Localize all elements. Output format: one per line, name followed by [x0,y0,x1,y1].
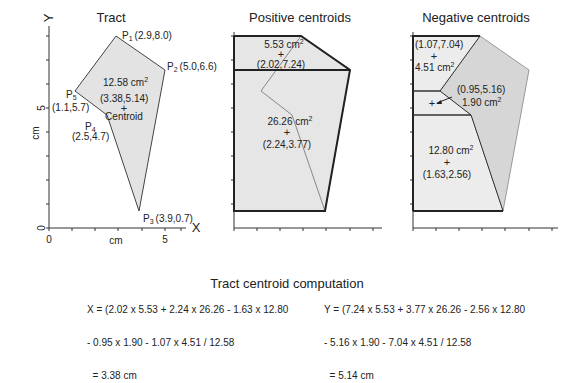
x-formula-line-3: = 3.38 cm [87,370,288,381]
positive-title: Positive centroids [249,10,351,25]
negative-marker-3: + [444,156,450,168]
tract-panel: Tract X Y 0 5 0 5 cm cm P1(2.9,8.0) [30,10,217,246]
positive-marker-2: + [284,126,290,138]
negative-marker-1: + [431,50,437,62]
x-formula-line-1: X = (2.02 x 5.53 + 2.24 x 26.26 - 1.63 x… [87,304,288,315]
positive-coord-1: (2.02,7.24) [257,59,305,70]
y-tick-0: 0 [36,225,47,231]
negative-coord-3: (1.63,2.56) [423,169,471,180]
y-formula-line-1: Y = (7.24 x 5.53 + 3.77 x 26.26 - 2.56 x… [324,304,525,315]
centroid-label: Centroid [105,111,143,122]
point-label-p2: P2(5.0,6.6) [167,61,217,73]
point-label-p1: P1(2.9,8.0) [122,30,172,42]
y-axis-letter: Y [41,13,56,22]
y-tick-5: 5 [36,105,47,111]
x-tick-5: 5 [162,234,168,245]
tract-title: Tract [96,10,126,25]
point-coord-p4: (2.5,4.7) [72,131,109,142]
tract-area: 12.58 cm2 [103,76,148,88]
x-formula: X = (2.02 x 5.53 + 2.24 x 26.26 - 1.63 x… [87,282,288,383]
point-coord-p5: (1.1,5.7) [52,102,89,113]
negative-coord-2: (0.95,5.16) [457,84,505,95]
x-tick-0: 0 [46,234,52,245]
negative-area-1: 4.51 cm2 [415,61,455,73]
x-formula-line-2: - 0.95 x 1.90 - 1.07 x 4.51 / 12.58 [87,337,288,348]
y-formula: Y = (7.24 x 5.53 + 3.77 x 26.26 - 2.56 x… [324,282,525,383]
y-formula-line-2: - 5.16 x 1.90 - 7.04 x 4.51 / 12.58 [324,337,525,348]
negative-area-2: 1.90 cm2 [462,96,502,108]
x-axis-letter: X [192,220,201,235]
y-axis-unit: cm [30,126,41,139]
x-axis-unit: cm [109,235,122,246]
negative-panel: Negative centroids (1.07,7.04) + 4.51 cm… [410,10,558,231]
negative-area-3: 12.80 cm2 [428,144,473,156]
negative-marker-2: + [429,97,435,109]
point-label-p3: P3(3.9,0.7) [143,213,193,225]
positive-panel: Positive centroids 5.53 cm2 + (2.02,7.24… [231,10,382,231]
y-formula-line-3: = 5.14 cm [324,370,525,381]
negative-coord-1: (1.07,7.04) [415,39,463,50]
positive-coord-2: (2.24,3.77) [263,139,311,150]
negative-title: Negative centroids [422,10,530,25]
